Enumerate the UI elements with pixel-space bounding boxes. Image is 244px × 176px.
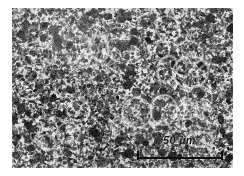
scale-bar-cap-left <box>137 151 139 160</box>
micrograph-plate: 50 µm <box>12 8 233 168</box>
scale-bar-line <box>137 157 223 159</box>
scale-bar-label: 50 µm <box>163 134 196 146</box>
micrograph-figure: 50 µm Grayscale micrograph showing a den… <box>0 0 244 176</box>
scale-bar: 50 µm <box>137 134 229 164</box>
scale-bar-cap-right <box>221 151 223 160</box>
